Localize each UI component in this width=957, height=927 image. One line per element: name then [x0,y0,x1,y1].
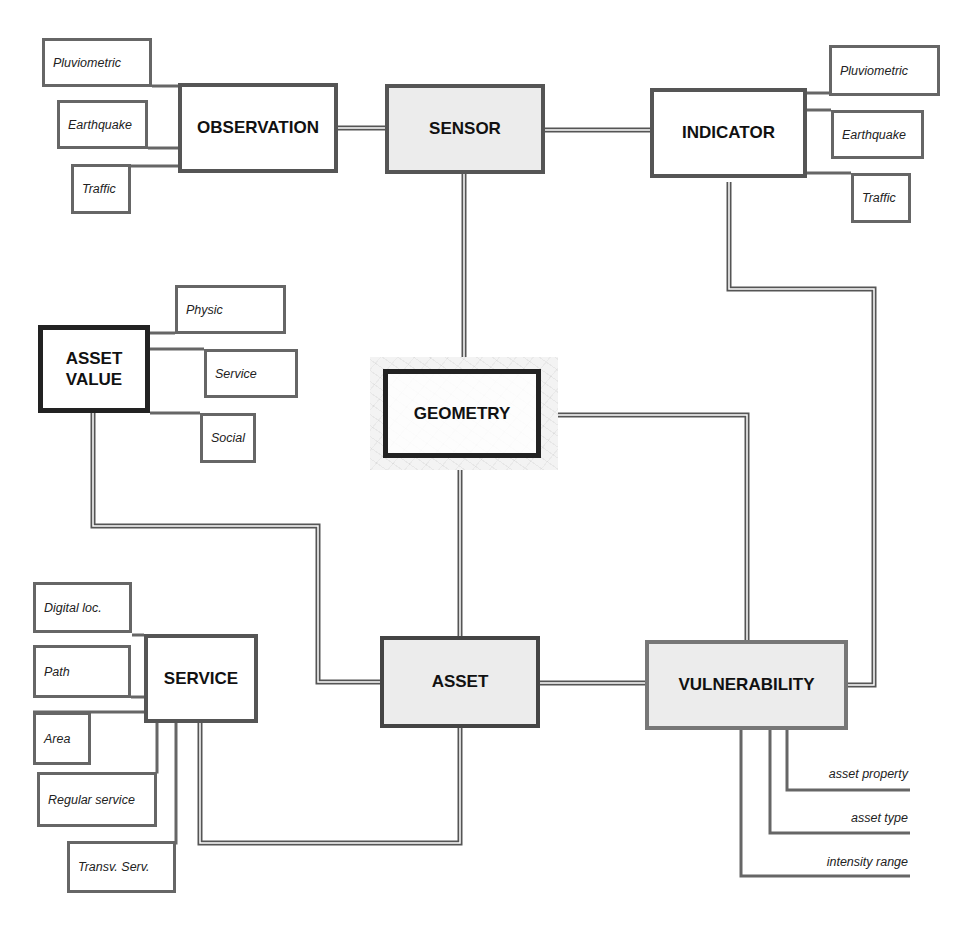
indicator-type-pluviometric: Pluviometric [829,45,940,96]
entity-indicator: INDICATOR [650,88,807,178]
service-type-regular-service: Regular service [37,772,157,827]
observation-type-earthquake: Earthquake [57,100,148,149]
service-type-transv-serv: Transv. Serv. [67,841,176,893]
attr-label: Regular service [48,793,135,807]
attr-label: Service [215,367,257,381]
entity-label: ASSET [66,348,123,369]
observation-type-traffic: Traffic [71,164,131,214]
relation-indicator-vulnerability [729,182,874,685]
relation-service-asset [200,722,460,843]
asset-value-type-social: Social [200,413,256,463]
attr-label: Transv. Serv. [78,860,150,874]
indicator-type-traffic: Traffic [851,173,911,223]
attr-label: Traffic [862,191,896,205]
entity-vulnerability: VULNERABILITY [645,640,848,730]
entity-asset: ASSET [380,636,540,728]
entity-geometry: GEOMETRY [383,369,541,458]
attr-label: Pluviometric [53,56,121,70]
entity-sensor: SENSOR [385,84,545,174]
attr-label: Earthquake [68,118,132,132]
attr-label: Pluviometric [840,64,908,78]
entity-label: VULNERABILITY [679,674,815,695]
entity-label: ASSET [432,671,489,692]
entity-label: INDICATOR [682,122,775,143]
entity-asset-value: ASSET VALUE [38,325,150,413]
vulnerability-attr-asset-type: asset type [780,811,908,825]
attr-label: Physic [186,303,223,317]
attr-label: Traffic [82,182,116,196]
entity-label: SENSOR [429,118,501,139]
vulnerability-attr-intensity-range: intensity range [780,855,908,869]
relation-geometry-vulnerability [541,415,747,640]
attr-label: Earthquake [842,128,906,142]
service-type-area: Area [33,712,91,765]
attr-label: Path [44,665,70,679]
asset-value-type-service: Service [204,349,298,398]
attr-label: Digital loc. [44,601,102,615]
attr-label: Area [44,732,70,746]
observation-type-pluviometric: Pluviometric [42,38,152,87]
service-type-path: Path [33,645,131,698]
attr-label: Social [211,431,245,445]
entity-service: SERVICE [144,634,258,723]
asset-value-type-physic: Physic [175,285,286,334]
entity-observation: OBSERVATION [178,83,338,173]
service-type-digital-loc: Digital loc. [33,582,132,633]
vulnerability-attr-asset-property: asset property [780,767,908,781]
entity-label: VALUE [66,369,122,390]
entity-label: SERVICE [164,668,238,689]
entity-label: OBSERVATION [197,117,319,138]
entity-label: GEOMETRY [414,403,511,424]
indicator-type-earthquake: Earthquake [831,110,924,159]
